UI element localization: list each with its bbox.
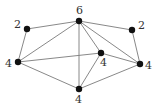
edge-left-bottom <box>18 62 79 89</box>
vertex-bottom <box>76 86 82 92</box>
vertex-right <box>137 61 143 67</box>
degree-label-upper-left: 2 <box>14 18 21 31</box>
degree-label-right: 4 <box>145 59 152 72</box>
edge-left-inner <box>18 53 101 62</box>
edge-inner-bottom <box>79 53 101 89</box>
degree-label-inner: 4 <box>100 56 107 69</box>
edge-upper-left-top <box>27 21 79 29</box>
vertex-left <box>15 59 21 65</box>
vertex-upper-left <box>24 26 30 32</box>
degree-label-bottom: 4 <box>75 93 82 106</box>
edge-top-inner <box>79 21 101 53</box>
degree-graph-diagram: 6224444 <box>0 0 159 109</box>
edge-top-upper-right <box>79 21 132 30</box>
degree-label-top: 6 <box>76 4 83 17</box>
vertex-top <box>76 18 82 24</box>
degree-label-left: 4 <box>5 57 12 70</box>
vertex-upper-right <box>129 27 135 33</box>
edge-bottom-right <box>79 64 140 89</box>
degree-label-upper-right: 2 <box>138 19 145 32</box>
graph-edges <box>18 21 140 89</box>
